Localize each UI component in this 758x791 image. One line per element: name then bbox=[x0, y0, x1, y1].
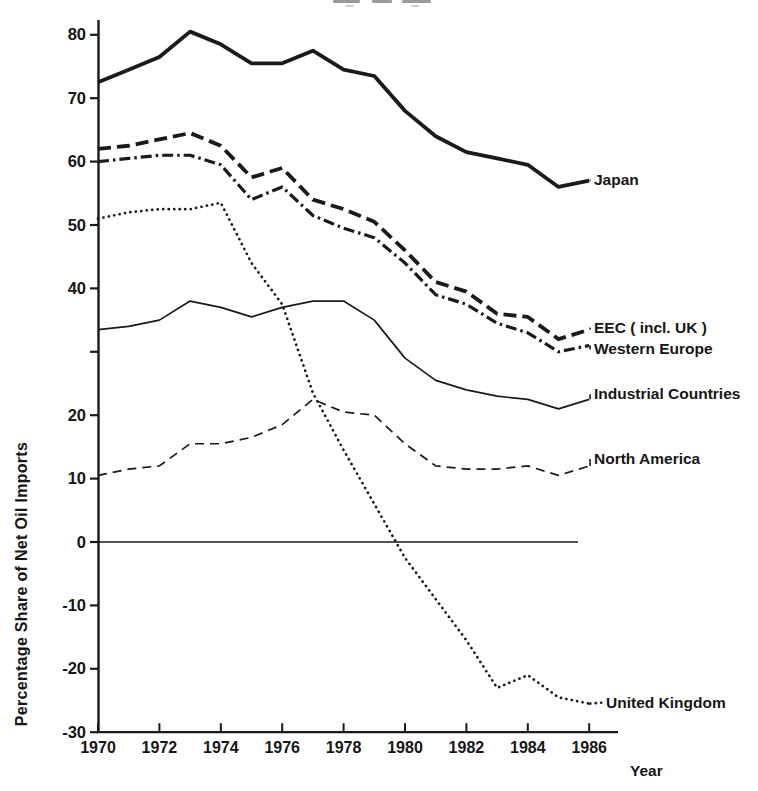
series-label: Western Europe bbox=[594, 340, 713, 357]
y-tick-label: 0 bbox=[77, 533, 86, 551]
figure: 807060504020100-10-20-301970197219741976… bbox=[0, 0, 758, 791]
series-label: EEC ( incl. UK ) bbox=[594, 319, 707, 336]
series-line-western-europe bbox=[98, 155, 589, 352]
cropped-title-fragment bbox=[0, 0, 758, 8]
net-oil-imports-line-chart: 807060504020100-10-20-301970197219741976… bbox=[0, 0, 758, 791]
x-tick-label: 1986 bbox=[571, 739, 607, 756]
y-tick-label: -30 bbox=[62, 723, 86, 741]
y-tick-label: -20 bbox=[62, 659, 86, 677]
x-tick-label: 1970 bbox=[80, 739, 116, 756]
series-line-united-kingdom bbox=[98, 203, 589, 704]
y-tick-label: 70 bbox=[68, 89, 86, 107]
series-leader bbox=[590, 703, 602, 704]
x-axis-title: Year bbox=[630, 762, 663, 780]
x-tick-label: 1974 bbox=[203, 739, 239, 756]
y-tick-label: 20 bbox=[68, 406, 86, 424]
series-label: United Kingdom bbox=[606, 694, 726, 711]
x-tick-label: 1978 bbox=[326, 739, 362, 756]
y-tick-label: 40 bbox=[68, 279, 86, 297]
y-axis-title: Percentage Share of Net Oil Imports bbox=[13, 442, 31, 726]
y-tick-label: -10 bbox=[62, 596, 86, 614]
series-line-north-america bbox=[98, 399, 589, 475]
series-label: Industrial Countries bbox=[594, 385, 740, 402]
x-tick-label: 1982 bbox=[449, 739, 485, 756]
y-tick-label: 50 bbox=[68, 216, 86, 234]
series-label: North America bbox=[594, 450, 701, 467]
x-tick-label: 1976 bbox=[264, 739, 300, 756]
x-tick-label: 1980 bbox=[387, 739, 423, 756]
y-tick-label: 80 bbox=[68, 25, 86, 43]
x-tick-label: 1984 bbox=[510, 739, 546, 756]
series-label: Japan bbox=[594, 171, 639, 188]
x-tick-label: 1972 bbox=[142, 739, 178, 756]
y-tick-label: 10 bbox=[68, 469, 86, 487]
y-tick-label: 60 bbox=[68, 152, 86, 170]
series-line-japan bbox=[98, 32, 589, 187]
